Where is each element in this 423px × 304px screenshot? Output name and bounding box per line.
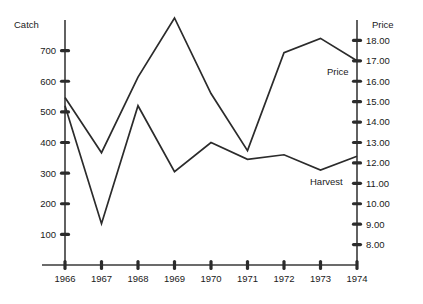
right-tick-label: 9.00 — [366, 219, 385, 230]
series-lines — [65, 18, 357, 224]
series-line-harvest — [65, 106, 357, 224]
price-series-label: Price — [327, 66, 349, 77]
x-tick-label: 1969 — [164, 273, 185, 284]
x-tick-label: 1972 — [273, 273, 294, 284]
left-tick-label: 500 — [40, 106, 56, 117]
left-tick-label: 200 — [40, 198, 56, 209]
right-axis-title: Price — [372, 19, 394, 30]
harvest-series-label: Harvest — [310, 176, 343, 187]
left-tick-label: 100 — [40, 229, 56, 240]
right-tick-label: 14.00 — [366, 116, 390, 127]
x-tick-label: 1968 — [127, 273, 148, 284]
right-axis-ticks: 8.009.0010.0011.0012.0013.0014.0015.0016… — [354, 35, 390, 250]
left-tick-label: 700 — [40, 45, 56, 56]
left-tick-label: 400 — [40, 137, 56, 148]
x-tick-label: 1967 — [91, 273, 112, 284]
x-tick-label: 1974 — [346, 273, 367, 284]
right-tick-label: 15.00 — [366, 96, 390, 107]
right-tick-label: 8.00 — [366, 239, 385, 250]
x-tick-label: 1970 — [200, 273, 221, 284]
right-tick-label: 13.00 — [366, 137, 390, 148]
axis-lines — [42, 20, 357, 265]
right-tick-label: 12.00 — [366, 157, 390, 168]
line-chart: 100200300400500600700 8.009.0010.0011.00… — [0, 0, 423, 304]
right-tick-label: 16.00 — [366, 76, 390, 87]
x-tick-label: 1973 — [310, 273, 331, 284]
left-tick-label: 600 — [40, 76, 56, 87]
x-tick-label: 1966 — [54, 273, 75, 284]
chart-container: 100200300400500600700 8.009.0010.0011.00… — [0, 0, 423, 304]
x-axis-ticks: 196619671968196919701971197219731974 — [54, 262, 367, 285]
left-tick-label: 300 — [40, 168, 56, 179]
left-axis-title: Catch — [14, 19, 39, 30]
right-tick-label: 18.00 — [366, 35, 390, 46]
right-tick-label: 10.00 — [366, 198, 390, 209]
series-line-price — [65, 18, 357, 153]
right-tick-label: 17.00 — [366, 55, 390, 66]
x-tick-label: 1971 — [237, 273, 258, 284]
right-tick-label: 11.00 — [366, 178, 389, 189]
